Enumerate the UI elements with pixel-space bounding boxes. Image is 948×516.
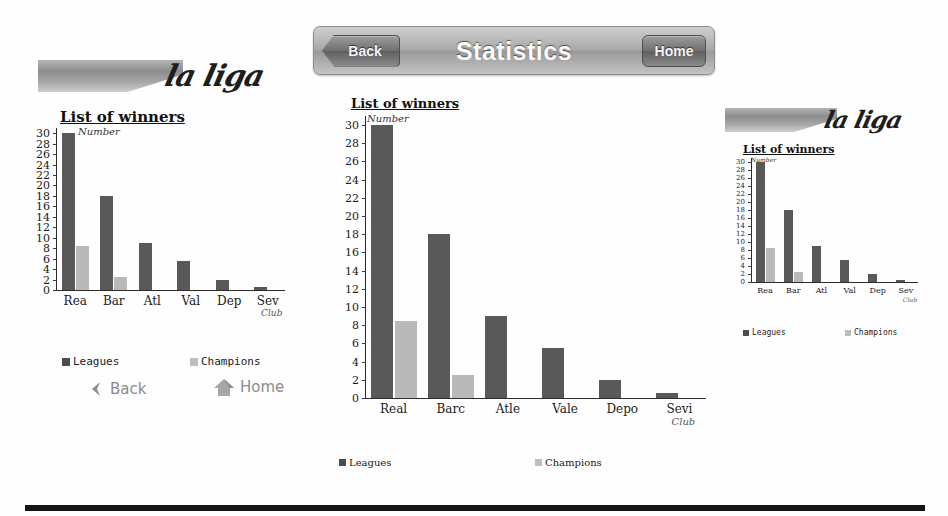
- y-tick-mark: [362, 143, 366, 144]
- y-tick-label: 12: [725, 230, 745, 238]
- y-tick-mark: [53, 144, 57, 145]
- left-statistics-panel: la liga List of winners 0246810121416182…: [0, 0, 313, 460]
- y-axis-label: Number: [367, 113, 409, 124]
- y-tick-label: 4: [333, 355, 359, 368]
- chart-title-right: List of winners: [743, 143, 835, 156]
- y-tick-label: 2: [333, 373, 359, 386]
- y-tick-mark: [362, 343, 366, 344]
- bar-barc-champions: [452, 375, 474, 398]
- home-button[interactable]: Home: [642, 35, 706, 67]
- legend-swatch-leagues: [743, 330, 749, 336]
- bar-real-leagues: [371, 125, 393, 398]
- la-liga-wordmark: la liga: [162, 58, 268, 93]
- y-tick-mark: [362, 161, 366, 162]
- y-tick-label: 12: [333, 282, 359, 295]
- x-tick-label: Atl: [816, 286, 827, 295]
- y-tick-mark: [748, 202, 752, 203]
- y-tick-mark: [53, 196, 57, 197]
- x-axis: [365, 398, 706, 399]
- bar-barc-leagues: [428, 234, 450, 398]
- y-tick-mark: [53, 238, 57, 239]
- y-tick-label: 30: [725, 158, 745, 166]
- y-tick-label: 16: [725, 214, 745, 222]
- y-tick-mark: [53, 206, 57, 207]
- x-tick-label: Rea: [64, 294, 87, 308]
- y-tick-mark: [362, 271, 366, 272]
- legend-swatch-leagues: [339, 459, 346, 466]
- y-tick-mark: [748, 194, 752, 195]
- y-tick-label: 10: [725, 238, 745, 246]
- x-tick-label: Vale: [552, 402, 578, 416]
- y-tick-label: 10: [333, 301, 359, 314]
- soft-back-button[interactable]: Back: [86, 379, 146, 399]
- y-axis: [751, 158, 752, 282]
- y-tick-mark: [748, 186, 752, 187]
- legend-champions-center: Champions: [535, 457, 602, 468]
- bar-sev-leagues: [896, 280, 905, 282]
- y-tick-mark: [748, 234, 752, 235]
- bar-atl-leagues: [139, 243, 152, 290]
- x-axis: [751, 282, 918, 283]
- x-tick-label: Sev: [899, 286, 914, 295]
- y-tick-mark: [748, 258, 752, 259]
- x-tick-label: Depo: [606, 402, 638, 416]
- right-statistics-panel: la liga List of winners 0246810121416182…: [715, 0, 948, 360]
- legend-swatch-champions: [845, 330, 851, 336]
- y-tick-mark: [362, 398, 366, 399]
- x-tick-label: Sevi: [666, 402, 692, 416]
- x-tick-label: Val: [843, 286, 855, 295]
- chart-title-left: List of winners: [60, 108, 185, 126]
- y-tick-mark: [748, 178, 752, 179]
- legend-label-champions: Champions: [854, 328, 897, 337]
- bar-bar-leagues: [100, 196, 113, 290]
- y-tick-mark: [748, 170, 752, 171]
- y-tick-mark: [362, 380, 366, 381]
- y-tick-label: 24: [725, 182, 745, 190]
- bar-rea-champions: [766, 248, 775, 282]
- y-tick-mark: [362, 234, 366, 235]
- legend-champions-right: Champions: [845, 328, 897, 337]
- bar-atl-leagues: [812, 246, 821, 282]
- legend-swatch-champions: [190, 358, 198, 366]
- y-tick-mark: [362, 289, 366, 290]
- y-tick-label: 22: [725, 190, 745, 198]
- y-tick-label: 30: [22, 127, 50, 140]
- bar-bar-leagues: [784, 210, 793, 282]
- x-tick-label: Sev: [257, 294, 279, 308]
- soft-home-button[interactable]: Home: [212, 375, 284, 399]
- legend-label-leagues: Leagues: [349, 457, 391, 468]
- y-tick-label: 14: [333, 264, 359, 277]
- y-tick-mark: [748, 218, 752, 219]
- x-axis-label: Club: [672, 416, 696, 427]
- banner-gradient-bar: [38, 60, 183, 92]
- y-tick-mark: [53, 290, 57, 291]
- y-tick-label: 26: [333, 155, 359, 168]
- y-tick-mark: [362, 198, 366, 199]
- bar-val-leagues: [840, 260, 849, 282]
- bar-dep-leagues: [868, 274, 877, 282]
- y-tick-label: 8: [333, 319, 359, 332]
- y-axis-label: Number: [78, 126, 120, 137]
- bar-sevi-leagues: [656, 393, 678, 398]
- y-tick-mark: [53, 217, 57, 218]
- y-tick-mark: [748, 266, 752, 267]
- bar-atle-leagues: [485, 316, 507, 398]
- y-tick-mark: [53, 269, 57, 270]
- legend-leagues-right: Leagues: [743, 328, 786, 337]
- y-tick-mark: [53, 154, 57, 155]
- y-tick-label: 24: [333, 173, 359, 186]
- y-axis: [56, 128, 57, 290]
- x-tick-label: Bar: [786, 286, 800, 295]
- y-tick-label: 0: [333, 392, 359, 405]
- chart-plot-right: 024681012141618202224262830NumberReaBarA…: [725, 158, 920, 308]
- y-tick-label: 18: [333, 228, 359, 241]
- x-tick-label: Rea: [757, 286, 773, 295]
- y-tick-mark: [748, 250, 752, 251]
- home-icon: [212, 375, 236, 399]
- y-tick-label: 20: [333, 210, 359, 223]
- y-tick-mark: [748, 274, 752, 275]
- y-tick-label: 14: [725, 222, 745, 230]
- banner-gradient-bar: [725, 108, 837, 132]
- y-tick-mark: [362, 362, 366, 363]
- bar-sev-leagues: [254, 287, 267, 290]
